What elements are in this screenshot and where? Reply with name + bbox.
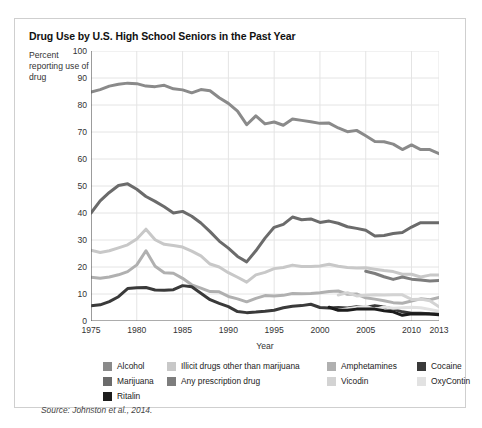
legend-item-label: Alcohol [117,361,144,371]
legend-item-label: Any prescription drug [181,376,260,386]
legend-item-label: Marijuana [117,376,154,386]
page-title: Drug Use by U.S. High School Seniors in … [29,30,295,42]
x-tick-2000: 2000 [310,325,329,335]
legend-item-amphetamines[interactable]: Amphetamines [327,361,397,371]
x-axis-tick-labels: 197519801985199019952000200520102013 [91,325,439,339]
x-axis-label: Year [91,341,439,351]
legend-item-label: OxyContin [431,376,470,386]
y-tick-90: 90 [63,73,87,83]
y-tick-80: 80 [63,100,87,110]
source-note: Source: Johnston et al., 2014. [41,405,152,415]
legend-swatch-icon [327,377,336,386]
legend-swatch-icon [167,362,176,371]
legend-swatch-icon [103,377,112,386]
y-tick-100: 100 [63,46,87,56]
legend-item-vicodin[interactable]: Vicodin [327,376,368,386]
legend-swatch-icon [417,377,426,386]
legend-item-illicit-drugs-other-than-marijuana[interactable]: Illicit drugs other than marijuana [167,361,300,371]
legend-item-any-prescription-drug[interactable]: Any prescription drug [167,376,260,386]
legend-swatch-icon [167,377,176,386]
x-tick-1990: 1990 [219,325,238,335]
x-tick-2010: 2010 [402,325,421,335]
y-axis-tick-labels: 0102030405060708090100 [61,51,87,321]
y-tick-70: 70 [63,127,87,137]
legend-item-marijuana[interactable]: Marijuana [103,376,154,386]
legend-swatch-icon [417,362,426,371]
x-tick-2005: 2005 [356,325,375,335]
legend-item-alcohol[interactable]: Alcohol [103,361,144,371]
legend-item-label: Cocaine [431,361,462,371]
line-chart-svg [91,51,439,321]
y-tick-30: 30 [63,235,87,245]
x-tick-1985: 1985 [173,325,192,335]
y-tick-10: 10 [63,289,87,299]
x-tick-2013: 2013 [429,325,448,335]
chart-legend: AlcoholMarijuanaRitalinIllicit drugs oth… [87,359,463,403]
x-tick-1975: 1975 [81,325,100,335]
chart-figure-panel: Drug Use by U.S. High School Seniors in … [14,18,466,408]
legend-item-label: Vicodin [341,376,368,386]
legend-swatch-icon [103,392,112,401]
x-tick-1995: 1995 [265,325,284,335]
legend-item-label: Ritalin [117,391,140,401]
y-tick-20: 20 [63,262,87,272]
y-tick-50: 50 [63,181,87,191]
legend-item-ritalin[interactable]: Ritalin [103,391,140,401]
plot-area [91,51,439,321]
legend-item-cocaine[interactable]: Cocaine [417,361,462,371]
legend-swatch-icon [327,362,336,371]
x-tick-1980: 1980 [127,325,146,335]
legend-item-oxycontin[interactable]: OxyContin [417,376,470,386]
legend-item-label: Illicit drugs other than marijuana [181,361,300,371]
y-tick-60: 60 [63,154,87,164]
legend-item-label: Amphetamines [341,361,397,371]
y-tick-40: 40 [63,208,87,218]
legend-swatch-icon [103,362,112,371]
